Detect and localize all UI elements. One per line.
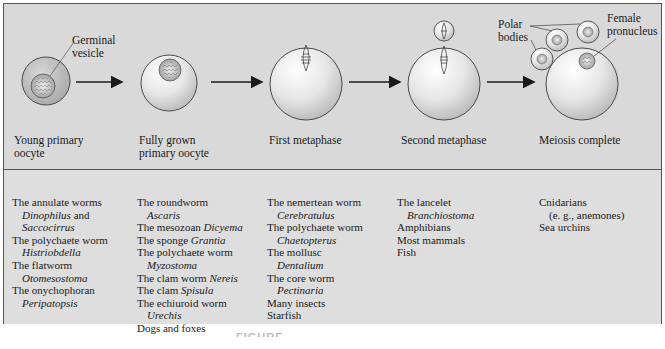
organism-entry: The roundworm (137, 196, 243, 209)
young-oocyte-icon (22, 42, 74, 105)
organism-entry: Many insects (267, 297, 363, 310)
first-metaphase-icon (270, 45, 342, 120)
stages-panel: Germinal vesicle Polar bodies Female pro… (4, 4, 661, 170)
organism-entry: Sea urchins (539, 221, 624, 234)
organism-entry: Saccocirrus (12, 221, 108, 234)
stage-label-grown-oocyte: Fully grownprimary oocyte (139, 134, 209, 160)
organism-column-2: The roundwormAscarisThe mesozoan Dicyema… (137, 196, 243, 335)
organism-entry: The polychaete worm (137, 246, 243, 259)
organism-entry: Histriobdella (12, 246, 108, 259)
meiosis-complete-icon (530, 21, 618, 120)
organism-entry: Ascaris (137, 209, 243, 222)
organism-entry: The mesozoan Dicyema (137, 221, 243, 234)
organism-entry: The echiuroid worm (137, 297, 243, 310)
organism-entry: The onychophoran (12, 284, 108, 297)
organism-entry: The clam Spisula (137, 284, 243, 297)
organism-column-5: Cnidarians(e. g., anemones)Sea urchins (539, 196, 624, 234)
organism-entry: The nemertean worm (267, 196, 363, 209)
organism-entry: The core worm (267, 272, 363, 285)
organism-entry: The polychaete worm (267, 221, 363, 234)
stage-label-young-oocyte: Young primaryoocyte (14, 134, 83, 160)
organism-entry: Pectinaria (267, 284, 363, 297)
stage-label-meiosis-complete: Meiosis complete (539, 134, 620, 147)
organism-entry: Branchiostoma (397, 209, 474, 222)
stage-label-second-metaphase: Second metaphase (401, 134, 486, 147)
organism-entry: Peripatopsis (12, 297, 108, 310)
organisms-panel: The annulate wormsDinophilus andSaccocir… (4, 170, 661, 324)
organism-entry: Dinophilus and (12, 209, 108, 222)
organism-entry: Urechis (137, 309, 243, 322)
organism-entry: Starfish (267, 309, 363, 322)
organism-entry: (e. g., anemones) (539, 209, 624, 222)
organism-entry: The lancelet (397, 196, 474, 209)
figure-frame: Germinal vesicle Polar bodies Female pro… (3, 3, 662, 324)
organism-entry: The clam worm Nereis (137, 272, 243, 285)
organism-entry: Myzostoma (137, 259, 243, 272)
organism-entry: Dentalium (267, 259, 363, 272)
germinal-vesicle-label: Germinal vesicle (72, 34, 115, 60)
organism-entry: Fish (397, 246, 474, 259)
organism-entry: The annulate worms (12, 196, 108, 209)
organism-entry: The sponge Grantia (137, 234, 243, 247)
organism-entry: Chaetopterus (267, 234, 363, 247)
organism-entry: Otomesostoma (12, 272, 108, 285)
organism-entry: Most mammals (397, 234, 474, 247)
grown-oocyte-icon (141, 55, 197, 111)
polar-bodies-label: Polar bodies (498, 18, 528, 44)
organism-entry: Dogs and foxes (137, 322, 243, 335)
organism-column-1: The annulate wormsDinophilus andSaccocir… (12, 196, 108, 309)
organism-entry: The mollusc (267, 246, 363, 259)
female-pronucleus-label: Female pronucleus (607, 12, 657, 38)
organism-entry: Amphibians (397, 221, 474, 234)
organism-entry: The polychaete worm (12, 234, 108, 247)
organism-column-3: The nemertean wormCerebratulusThe polych… (267, 196, 363, 322)
organism-column-4: The lanceletBranchiostomaAmphibiansMost … (397, 196, 474, 259)
second-metaphase-icon (408, 21, 480, 120)
organism-entry: The flatworm (12, 259, 108, 272)
organism-entry: Cerebratulus (267, 209, 363, 222)
figure-caption: FIGURE (236, 331, 284, 337)
organism-entry: Cnidarians (539, 196, 624, 209)
stage-label-first-metaphase: First metaphase (269, 134, 342, 147)
